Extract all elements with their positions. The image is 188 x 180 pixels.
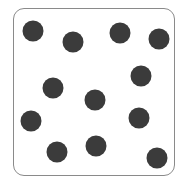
dot: [129, 108, 150, 129]
dot: [21, 111, 42, 132]
dot: [86, 136, 107, 157]
dot: [43, 78, 64, 99]
dot: [47, 142, 68, 163]
dot: [23, 21, 44, 42]
dot: [131, 66, 152, 87]
dot: [63, 32, 84, 53]
dot: [147, 148, 168, 169]
dot: [85, 90, 106, 111]
dot: [149, 29, 170, 50]
dot: [110, 23, 131, 44]
